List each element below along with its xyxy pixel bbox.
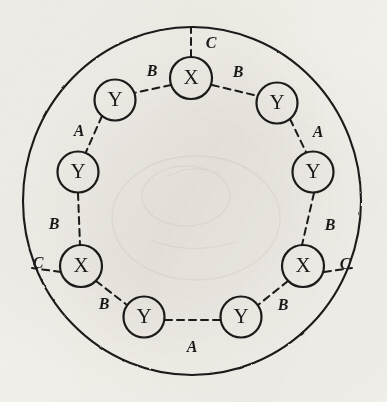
edge-x-lower-right-y-bottom-right-label: B (277, 296, 289, 313)
node-x-top: X (170, 57, 212, 99)
node-y-bottom-left: Y (124, 297, 165, 338)
edge-y-left-x-lower-left (78, 193, 80, 245)
node-label-x-lower-left: X (73, 253, 88, 277)
node-label-y-upper-left: Y (107, 87, 122, 111)
node-y-bottom-right: Y (221, 297, 262, 338)
edge-y-upper-right-y-right-label: A (312, 123, 324, 140)
node-label-y-left: Y (70, 159, 85, 183)
edge-x-top-to-boundary-label: C (206, 34, 217, 51)
node-x-lower-left: X (60, 245, 102, 287)
node-y-right: Y (293, 152, 334, 193)
node-label-y-bottom-left: Y (136, 304, 151, 328)
node-label-y-upper-right: Y (269, 90, 284, 114)
paper-ghost-marks (112, 156, 280, 280)
node-label-x-top: X (183, 65, 198, 89)
edge-x-top-y-upper-right-label: B (232, 63, 244, 80)
edge-x-top-y-upper-left-label: B (146, 62, 158, 79)
node-y-left: Y (58, 152, 99, 193)
edge-y-upper-left-y-left (86, 116, 102, 152)
node-y-upper-right: Y (257, 83, 298, 124)
node-y-upper-left: Y (95, 80, 136, 121)
edge-y-right-x-lower-right-label: B (324, 216, 336, 233)
edge-y-bottom-left-y-bottom-right-label: A (186, 338, 198, 355)
edge-x-lower-left-to-boundary-label: C (33, 254, 44, 271)
edge-x-lower-left-y-bottom-left-label: B (98, 295, 110, 312)
edge-x-top-y-upper-left (134, 85, 171, 93)
ring-diagram-svg: CBBAABBCCBBA XYYXYYXYY (0, 0, 387, 402)
node-label-y-right: Y (305, 159, 320, 183)
node-label-y-bottom-right: Y (233, 304, 248, 328)
figure-root: CBBAABBCCBBA XYYXYYXYY (0, 0, 387, 402)
node-label-x-lower-right: X (295, 253, 310, 277)
edge-y-upper-left-y-left-label: A (73, 122, 85, 139)
edge-y-upper-right-y-right (290, 119, 306, 152)
edge-x-lower-right-to-boundary-label: C (340, 255, 351, 272)
node-x-lower-right: X (282, 245, 324, 287)
edge-x-top-y-upper-right (212, 85, 258, 96)
edge-y-right-x-lower-right (302, 193, 314, 245)
edge-y-left-x-lower-left-label: B (48, 215, 60, 232)
